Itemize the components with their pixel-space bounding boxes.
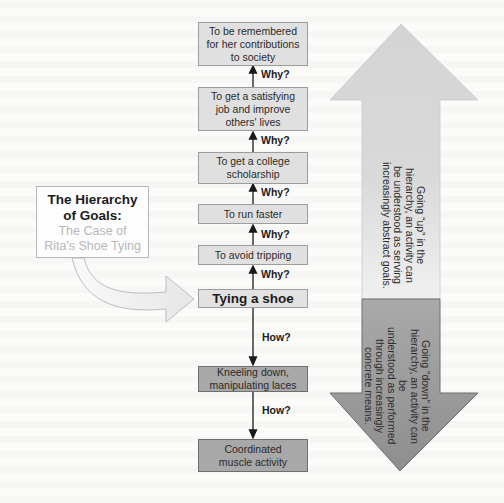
subtitle-line-1: The Case of — [37, 224, 148, 239]
why-label: Why? — [261, 228, 290, 240]
subtitle-line-2: Rita's Shoe Tying — [37, 239, 148, 254]
goal-text: To get a college — [216, 155, 290, 168]
goal-box-scholarship: To get a college scholarship — [198, 152, 308, 184]
caption-line: concrete means. — [363, 347, 375, 425]
focus-box-tying-shoe: Tying a shoe — [198, 289, 308, 308]
caption-line: hierarchy, an activity can — [404, 168, 416, 283]
goal-text: To run faster — [224, 208, 282, 221]
focus-text: Tying a shoe — [212, 292, 294, 305]
up-arrow-caption: Going “up” in the hierarchy, an activity… — [376, 160, 426, 290]
means-text: Kneeling down, — [210, 366, 297, 379]
title-line-2: of Goals: — [37, 208, 148, 224]
how-label: How? — [262, 331, 291, 343]
caption-line: increasingly abstract goals. — [381, 162, 393, 289]
curved-arrow-icon — [72, 258, 194, 322]
caption-line: Going “down” in the — [420, 340, 432, 432]
means-box-muscle-activity: Coordinated muscle activity — [198, 439, 308, 472]
down-arrow-caption: Going “down” in the hierarchy, an activi… — [373, 322, 431, 450]
means-text: manipulating laces — [210, 379, 297, 392]
caption-line: through increasingly — [374, 339, 386, 433]
why-label: Why? — [261, 134, 290, 146]
caption-line: understood as performed — [386, 327, 398, 444]
goal-box-satisfying-job: To get a satisfying job and improve othe… — [198, 87, 308, 131]
title-line-1: The Hierarchy — [37, 192, 148, 208]
how-label: How? — [262, 404, 291, 416]
goal-text: to society — [207, 51, 300, 64]
goal-box-remembered: To be remembered for her contributions t… — [198, 22, 308, 66]
means-box-kneeling: Kneeling down, manipulating laces — [198, 366, 308, 392]
goal-box-run-faster: To run faster — [198, 204, 308, 224]
goal-text: To avoid tripping — [215, 249, 291, 262]
why-label: Why? — [261, 68, 290, 80]
goal-text: To get a satisfying — [211, 90, 295, 103]
means-text: Coordinated — [219, 443, 287, 456]
why-label: Why? — [261, 186, 290, 198]
goal-text: for her contributions — [207, 38, 300, 51]
caption-line: hierarchy, an activity can be — [397, 329, 421, 444]
goal-box-avoid-tripping: To avoid tripping — [198, 245, 308, 265]
goal-text: others' lives — [211, 116, 295, 129]
goal-text: To be remembered — [207, 25, 300, 38]
goal-text: job and improve — [211, 103, 295, 116]
why-label: Why? — [261, 268, 290, 280]
means-text: muscle activity — [219, 456, 287, 469]
title-box: The Hierarchy of Goals: The Case of Rita… — [36, 186, 149, 258]
caption-line: be understood as serving — [392, 166, 404, 284]
goal-text: scholarship — [216, 168, 290, 181]
caption-line: Going “up” in the — [415, 186, 427, 264]
